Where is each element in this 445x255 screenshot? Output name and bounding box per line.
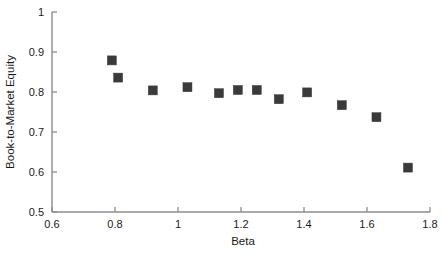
y-tick-label: 0.7	[29, 126, 44, 138]
y-tick-label: 0.5	[29, 206, 44, 218]
data-point-marker	[107, 56, 116, 65]
data-point-marker	[252, 86, 261, 95]
x-tick-label: 1.6	[359, 218, 374, 230]
data-point-marker	[233, 86, 242, 95]
y-tick-label: 0.6	[29, 166, 44, 178]
y-tick-label: 0.9	[29, 46, 44, 58]
x-tick-label: 0.8	[107, 218, 122, 230]
data-point-marker	[214, 89, 223, 98]
data-points	[107, 56, 412, 172]
x-tick-label: 0.6	[44, 218, 59, 230]
x-tick-label: 1	[175, 218, 181, 230]
data-point-marker	[183, 83, 192, 92]
y-tick-label: 0.8	[29, 86, 44, 98]
axes	[52, 12, 430, 212]
data-point-marker	[337, 101, 346, 110]
x-tick-label: 1.8	[422, 218, 437, 230]
chart-page: 0.60.811.21.41.61.80.50.60.70.80.91 Beta…	[0, 0, 445, 255]
data-point-marker	[114, 73, 123, 82]
y-axis-title: Book-to-Market Equity	[4, 55, 16, 169]
data-point-marker	[403, 163, 412, 172]
scatter-plot: 0.60.811.21.41.61.80.50.60.70.80.91 Beta…	[0, 0, 445, 255]
data-point-marker	[148, 86, 157, 95]
data-point-marker	[274, 95, 283, 104]
data-point-marker	[303, 88, 312, 97]
x-tick-label: 1.4	[296, 218, 311, 230]
axis-ticks	[52, 12, 430, 212]
x-axis-title: Beta	[231, 235, 255, 247]
x-tick-label: 1.2	[233, 218, 248, 230]
y-tick-label: 1	[38, 6, 44, 18]
data-point-marker	[372, 113, 381, 122]
